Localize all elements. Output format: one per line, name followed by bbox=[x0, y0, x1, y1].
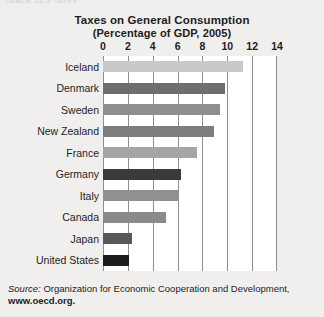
cut-off-caption-text: TABLE 12.3 Taxes bbox=[4, 0, 77, 5]
x-tick-label-8: 8 bbox=[200, 40, 206, 52]
category-label-new-zealand: New Zealand bbox=[37, 125, 99, 137]
x-tick-label-2: 2 bbox=[125, 40, 131, 52]
x-tick-label-6: 6 bbox=[175, 40, 181, 52]
category-label-iceland: Iceland bbox=[65, 61, 99, 73]
source-label: Source: bbox=[8, 283, 41, 294]
category-label-france: France bbox=[66, 147, 99, 159]
category-label-sweden: Sweden bbox=[61, 104, 99, 116]
bar-series bbox=[103, 56, 303, 271]
x-tick-label-14: 14 bbox=[271, 40, 283, 52]
category-label-denmark: Denmark bbox=[56, 82, 99, 94]
source-note: Source: Organization for Economic Cooper… bbox=[8, 283, 318, 307]
bar-japan bbox=[103, 233, 132, 244]
bar-italy bbox=[103, 190, 178, 201]
source-line-1: Source: Organization for Economic Cooper… bbox=[8, 283, 318, 295]
chart-title-block: Taxes on General Consumption (Percentage… bbox=[0, 14, 324, 40]
category-label-japan: Japan bbox=[70, 233, 99, 245]
bar-new-zealand bbox=[103, 126, 214, 137]
chart-figure: Taxes on General Consumption (Percentage… bbox=[0, 9, 324, 317]
bar-chart: 02468101214 IcelandDenmarkSwedenNew Zeal… bbox=[0, 40, 324, 280]
bar-denmark bbox=[103, 83, 225, 94]
category-label-united-states: United States bbox=[36, 254, 99, 266]
source-url: www.oecd.org. bbox=[8, 295, 318, 307]
bar-germany bbox=[103, 169, 181, 180]
bar-sweden bbox=[103, 104, 220, 115]
bar-united-states bbox=[103, 255, 129, 266]
chart-subtitle: (Percentage of GDP, 2005) bbox=[0, 27, 324, 40]
bar-france bbox=[103, 147, 197, 158]
x-tick-label-0: 0 bbox=[100, 40, 106, 52]
chart-title: Taxes on General Consumption bbox=[0, 14, 324, 27]
x-axis-tick-labels: 02468101214 bbox=[0, 40, 324, 54]
cut-off-caption-strip: TABLE 12.3 Taxes bbox=[0, 0, 324, 9]
bar-iceland bbox=[103, 61, 243, 72]
category-label-italy: Italy bbox=[80, 190, 99, 202]
x-tick-label-12: 12 bbox=[246, 40, 258, 52]
x-tick-label-4: 4 bbox=[150, 40, 156, 52]
y-axis-category-labels: IcelandDenmarkSwedenNew ZealandFranceGer… bbox=[0, 56, 99, 271]
category-label-germany: Germany bbox=[56, 168, 99, 180]
bar-canada bbox=[103, 212, 166, 223]
category-label-canada: Canada bbox=[62, 211, 99, 223]
source-organization: Organization for Economic Cooperation an… bbox=[41, 283, 290, 294]
x-tick-label-10: 10 bbox=[221, 40, 233, 52]
